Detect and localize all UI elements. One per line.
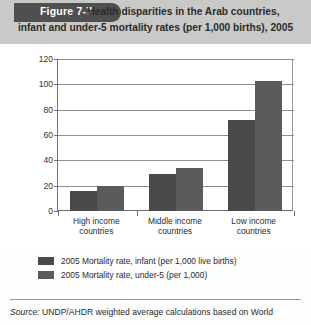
y-tick-label-0: 0 — [48, 206, 53, 216]
bar-group — [58, 59, 137, 211]
figure-title-line-1: Health disparities in the Arab countries… — [0, 4, 311, 20]
figure-title-line-2: infant and under-5 mortality rates (per … — [0, 20, 311, 36]
category-axis-labels: High incomecountriesMiddle incomecountri… — [57, 216, 293, 236]
bar-infant[interactable] — [149, 174, 176, 211]
category-label-line: Low income — [214, 216, 293, 226]
y-tick-label-80: 80 — [43, 105, 53, 115]
y-tick-label-60: 60 — [43, 130, 53, 140]
legend-item[interactable]: 2005 Mortality rate, under-5 (per 1,000) — [38, 270, 298, 280]
category-label-line: High income — [57, 216, 136, 226]
bar-under5[interactable] — [97, 186, 124, 211]
legend-label: 2005 Mortality rate, under-5 (per 1,000) — [61, 270, 207, 280]
chart-legend: 2005 Mortality rate, infant (per 1,000 l… — [38, 256, 298, 284]
y-tick-label-20: 20 — [43, 181, 53, 191]
x-tick-mark — [294, 211, 295, 216]
bar-under5[interactable] — [255, 81, 282, 211]
category-label: High incomecountries — [57, 216, 136, 236]
category-label-line: Middle income — [136, 216, 215, 226]
source-divider — [10, 299, 301, 300]
bar-group — [137, 59, 216, 211]
legend-label: 2005 Mortality rate, infant (per 1,000 l… — [61, 256, 237, 266]
figure-header-band: Figure 7-7 Health disparities in the Ara… — [0, 0, 311, 44]
source-text: UNDP/AHDR weighted average calculations … — [42, 307, 273, 317]
bar-group — [215, 59, 294, 211]
category-label: Low incomecountries — [214, 216, 293, 236]
y-tick-label-40: 40 — [43, 155, 53, 165]
figure-title: Health disparities in the Arab countries… — [0, 4, 311, 36]
bar-groups — [58, 59, 294, 211]
bar-infant[interactable] — [228, 120, 255, 211]
category-label-line: countries — [136, 226, 215, 236]
legend-swatch — [38, 271, 54, 279]
bar-under5[interactable] — [176, 168, 203, 211]
bar-infant[interactable] — [70, 191, 97, 211]
source-prefix: Source: — [10, 307, 40, 317]
source-note: Source: UNDP/AHDR weighted average calcu… — [10, 306, 305, 318]
y-tick-label-120: 120 — [39, 54, 53, 64]
chart-area: 020406080100120 High incomecountriesMidd… — [0, 44, 311, 250]
legend-item[interactable]: 2005 Mortality rate, infant (per 1,000 l… — [38, 256, 298, 266]
legend-swatch — [38, 257, 54, 265]
plot-region: 020406080100120 — [57, 59, 293, 211]
figure-container: Figure 7-7 Health disparities in the Ara… — [0, 0, 311, 325]
category-label: Middle incomecountries — [136, 216, 215, 236]
category-label-line: countries — [214, 226, 293, 236]
y-tick-label-100: 100 — [39, 79, 53, 89]
category-label-line: countries — [57, 226, 136, 236]
